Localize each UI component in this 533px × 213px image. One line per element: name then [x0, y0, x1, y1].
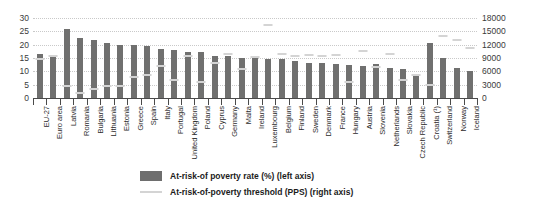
- threshold-marker[interactable]: [331, 54, 340, 56]
- threshold-marker[interactable]: [237, 68, 246, 70]
- threshold-marker[interactable]: [89, 88, 98, 90]
- bar[interactable]: [306, 63, 312, 98]
- bar-group[interactable]: [369, 18, 382, 98]
- bar[interactable]: [225, 56, 231, 98]
- bar-group[interactable]: [356, 18, 369, 98]
- bar[interactable]: [279, 59, 285, 98]
- bar-group[interactable]: [127, 18, 140, 98]
- bar[interactable]: [440, 58, 446, 98]
- category-label: Latvia: [70, 106, 78, 126]
- threshold-marker[interactable]: [372, 66, 381, 68]
- threshold-marker[interactable]: [156, 65, 165, 67]
- threshold-marker[interactable]: [291, 55, 300, 57]
- threshold-marker[interactable]: [62, 85, 71, 87]
- bar[interactable]: [104, 43, 110, 98]
- bar[interactable]: [427, 43, 433, 98]
- bar[interactable]: [239, 58, 245, 98]
- bar[interactable]: [387, 68, 393, 98]
- bar-group[interactable]: [423, 18, 436, 98]
- bar-group[interactable]: [114, 18, 127, 98]
- bar[interactable]: [454, 68, 460, 98]
- bar[interactable]: [37, 54, 43, 98]
- threshold-marker[interactable]: [412, 74, 421, 76]
- threshold-marker[interactable]: [398, 79, 407, 81]
- bar-group[interactable]: [181, 18, 194, 98]
- bar-group[interactable]: [221, 18, 234, 98]
- bar-group[interactable]: [450, 18, 463, 98]
- bar-group[interactable]: [194, 18, 207, 98]
- bar-group[interactable]: [154, 18, 167, 98]
- threshold-marker[interactable]: [183, 55, 192, 57]
- threshold-marker[interactable]: [452, 39, 461, 41]
- bar-group[interactable]: [329, 18, 342, 98]
- threshold-marker[interactable]: [345, 81, 354, 83]
- threshold-marker[interactable]: [224, 53, 233, 55]
- threshold-marker[interactable]: [304, 54, 313, 56]
- bar[interactable]: [413, 74, 419, 98]
- category-label: Austria: [366, 106, 374, 129]
- bar-group[interactable]: [275, 18, 288, 98]
- bar-group[interactable]: [141, 18, 154, 98]
- bar-group[interactable]: [464, 18, 477, 98]
- bar[interactable]: [144, 46, 150, 98]
- bar[interactable]: [50, 55, 56, 98]
- bar-group[interactable]: [73, 18, 86, 98]
- threshold-marker[interactable]: [35, 58, 44, 60]
- bar-group[interactable]: [396, 18, 409, 98]
- bar-group[interactable]: [437, 18, 450, 98]
- bar[interactable]: [333, 64, 339, 98]
- threshold-marker[interactable]: [76, 92, 85, 94]
- bar[interactable]: [467, 71, 473, 98]
- bar[interactable]: [292, 61, 298, 98]
- bar[interactable]: [265, 59, 271, 98]
- bar-group[interactable]: [87, 18, 100, 98]
- bar[interactable]: [252, 58, 258, 98]
- bar[interactable]: [171, 50, 177, 98]
- bar-group[interactable]: [60, 18, 73, 98]
- bar-group[interactable]: [316, 18, 329, 98]
- bar[interactable]: [117, 45, 123, 98]
- bar[interactable]: [158, 49, 164, 98]
- bar[interactable]: [360, 66, 366, 98]
- threshold-marker[interactable]: [318, 55, 327, 57]
- x-axis-tick: [154, 98, 155, 105]
- bar[interactable]: [373, 64, 379, 98]
- threshold-marker[interactable]: [210, 62, 219, 64]
- bar[interactable]: [198, 52, 204, 98]
- bar[interactable]: [319, 63, 325, 98]
- bar-group[interactable]: [208, 18, 221, 98]
- bar-group[interactable]: [383, 18, 396, 98]
- bar-group[interactable]: [100, 18, 113, 98]
- bar[interactable]: [185, 52, 191, 98]
- bar-group[interactable]: [235, 18, 248, 98]
- threshold-marker[interactable]: [358, 50, 367, 52]
- threshold-marker[interactable]: [197, 81, 206, 83]
- x-axis-tick: [114, 98, 115, 105]
- threshold-marker[interactable]: [143, 74, 152, 76]
- threshold-marker[interactable]: [170, 79, 179, 81]
- bar[interactable]: [400, 69, 406, 98]
- bar-group[interactable]: [168, 18, 181, 98]
- bar-group[interactable]: [342, 18, 355, 98]
- threshold-marker[interactable]: [49, 55, 58, 57]
- bar-group[interactable]: [46, 18, 59, 98]
- threshold-marker[interactable]: [264, 24, 273, 26]
- bar-group[interactable]: [33, 18, 46, 98]
- threshold-marker[interactable]: [250, 56, 259, 58]
- bar[interactable]: [64, 29, 70, 98]
- threshold-marker[interactable]: [277, 53, 286, 55]
- bar-group[interactable]: [302, 18, 315, 98]
- bar-group[interactable]: [410, 18, 423, 98]
- threshold-marker[interactable]: [129, 76, 138, 78]
- threshold-marker[interactable]: [466, 47, 475, 49]
- threshold-marker[interactable]: [116, 85, 125, 87]
- bar[interactable]: [77, 38, 83, 98]
- threshold-marker[interactable]: [425, 84, 434, 86]
- bar-group[interactable]: [248, 18, 261, 98]
- threshold-marker[interactable]: [385, 53, 394, 55]
- bar-group[interactable]: [289, 18, 302, 98]
- bar[interactable]: [131, 45, 137, 98]
- threshold-marker[interactable]: [439, 35, 448, 37]
- bar-group[interactable]: [262, 18, 275, 98]
- threshold-marker[interactable]: [102, 85, 111, 87]
